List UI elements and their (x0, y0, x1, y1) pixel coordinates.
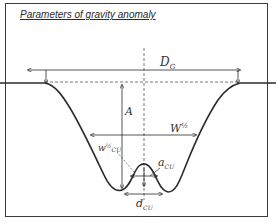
label-a: A (124, 105, 133, 118)
label-w-half-cu: w½CU (98, 142, 122, 153)
label-w-half: W½ (170, 122, 188, 135)
label-a-cu: aCU (158, 156, 175, 170)
w-half-cu-leader (117, 152, 134, 172)
label-dg: DG (159, 55, 176, 71)
label-d-cu: dCU (136, 197, 154, 211)
gravity-anomaly-diagram: DG A W½ w½CU aCU dCU (0, 0, 276, 223)
